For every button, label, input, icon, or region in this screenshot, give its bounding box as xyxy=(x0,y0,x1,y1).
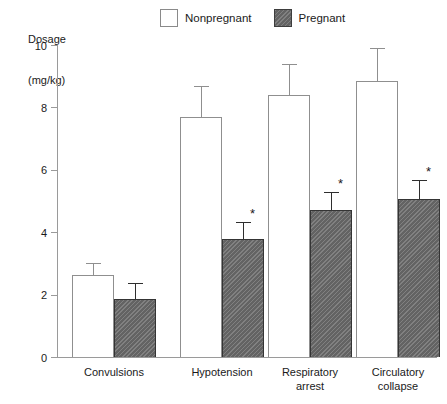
error-bar-stem xyxy=(419,180,420,199)
error-bar-cap xyxy=(412,180,427,181)
error-bar-pregnant xyxy=(419,180,420,199)
bar-nonpregnant xyxy=(268,95,310,357)
y-axis-tick: 0 xyxy=(51,357,57,358)
error-bar-stem xyxy=(201,86,202,117)
y-axis-tick-label: 0 xyxy=(41,352,47,364)
y-axis-tick: 8 xyxy=(51,107,57,108)
bar-pregnant xyxy=(398,199,440,357)
error-bar-nonpregnant xyxy=(201,86,202,117)
y-axis-tick: 4 xyxy=(51,232,57,233)
y-axis-line xyxy=(57,45,58,358)
error-bar-stem xyxy=(289,64,290,95)
y-axis-tick: 10 xyxy=(51,45,57,46)
error-bar-stem xyxy=(135,283,136,299)
error-bar-cap xyxy=(370,48,385,49)
y-axis-tick-label: 6 xyxy=(41,164,47,176)
bar-chart: Dosage (mg/kg) Nonpregnant Pregnant Bupi… xyxy=(0,0,447,404)
plot-area: 0246810 *** ConvulsionsHypotensionRespir… xyxy=(0,0,447,404)
significance-asterisk: * xyxy=(338,177,343,190)
error-bar-stem xyxy=(377,48,378,81)
bar-pregnant xyxy=(310,210,352,357)
error-bar-nonpregnant xyxy=(289,64,290,95)
error-bar-nonpregnant xyxy=(93,263,94,275)
bar-pregnant xyxy=(222,239,264,357)
bar-nonpregnant xyxy=(356,81,398,357)
bar-nonpregnant xyxy=(180,117,222,357)
error-bar-stem xyxy=(243,222,244,239)
significance-asterisk: * xyxy=(426,165,431,178)
error-bar-nonpregnant xyxy=(377,48,378,81)
error-bar-cap xyxy=(324,192,339,193)
x-axis-baseline xyxy=(57,357,437,358)
bar-pregnant xyxy=(114,299,156,357)
y-axis-tick: 2 xyxy=(51,295,57,296)
y-axis-tick: 6 xyxy=(51,170,57,171)
significance-asterisk: * xyxy=(250,207,255,220)
category-label-line: Circulatory xyxy=(333,366,447,380)
y-axis-tick-label: 4 xyxy=(41,227,47,239)
y-axis-tick-label: 2 xyxy=(41,289,47,301)
error-bar-pregnant xyxy=(135,283,136,299)
error-bar-pregnant xyxy=(243,222,244,239)
error-bar-stem xyxy=(331,192,332,211)
category-label-line: collapse xyxy=(333,380,447,394)
y-axis-tick-label: 8 xyxy=(41,102,47,114)
error-bar-cap xyxy=(128,283,143,284)
error-bar-cap xyxy=(236,222,251,223)
bar-nonpregnant xyxy=(72,275,114,357)
y-axis-tick-label: 10 xyxy=(35,40,47,52)
category-label: Circulatorycollapse xyxy=(333,366,447,393)
error-bar-cap xyxy=(282,64,297,65)
error-bar-cap xyxy=(86,263,101,264)
error-bar-stem xyxy=(93,263,94,275)
error-bar-pregnant xyxy=(331,192,332,211)
error-bar-cap xyxy=(194,86,209,87)
